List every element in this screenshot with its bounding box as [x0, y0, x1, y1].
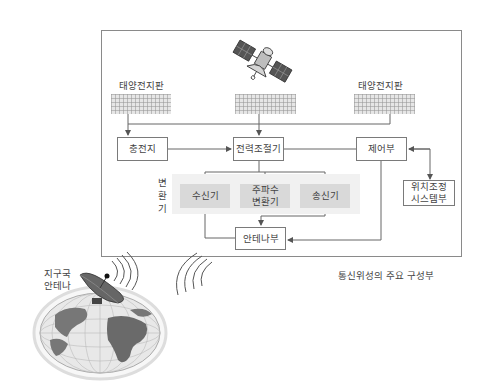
battery-box: 충전지	[117, 137, 168, 161]
converter-group-label: 변 환 기	[156, 176, 168, 215]
attitude-system-box: 위치조정 시스템부	[403, 180, 455, 206]
converter-char-3: 기	[156, 202, 168, 215]
battery-label: 충전지	[129, 143, 156, 155]
attitude-system-line2: 시스템부	[411, 193, 447, 205]
solar-panel-right-label: 태양전지판	[358, 78, 403, 92]
solar-panel-right	[354, 94, 415, 114]
converter-char-1: 변	[156, 176, 168, 189]
transmitter-box: 송신기	[300, 184, 350, 208]
ground-antenna-icon	[80, 273, 124, 304]
earth-globe-icon	[34, 287, 166, 379]
attitude-system-line1: 위치조정	[411, 181, 447, 193]
ground-antenna-label: 지구국 안테나	[44, 268, 71, 292]
ground-antenna-label-line2: 안테나	[44, 280, 71, 292]
antenna-unit-box: 안테나부	[235, 227, 286, 250]
diagram-caption: 통신위성의 주요 구성부	[338, 268, 434, 282]
power-controller-label: 전력조절기	[236, 143, 281, 155]
control-unit-box: 제어부	[356, 137, 407, 161]
frequency-converter-box: 주파수 변환기	[240, 184, 290, 208]
transmitter-label: 송신기	[312, 190, 339, 202]
frequency-converter-line1: 주파수	[252, 184, 279, 196]
antenna-unit-label: 안테나부	[243, 233, 279, 245]
signal-waves-downlink	[177, 253, 212, 295]
signal-waves-uplink	[112, 252, 138, 290]
control-unit-label: 제어부	[368, 143, 395, 155]
receiver-label: 수신기	[192, 190, 219, 202]
solar-panel-left	[111, 94, 171, 114]
frequency-converter-line2: 변환기	[252, 196, 279, 208]
solar-panel-left-label: 태양전지판	[119, 78, 164, 92]
ground-antenna-label-line1: 지구국	[44, 268, 71, 280]
power-controller-box: 전력조절기	[233, 137, 284, 161]
solar-panel-middle	[235, 94, 296, 114]
converter-char-2: 환	[156, 189, 168, 202]
receiver-box: 수신기	[180, 184, 230, 208]
